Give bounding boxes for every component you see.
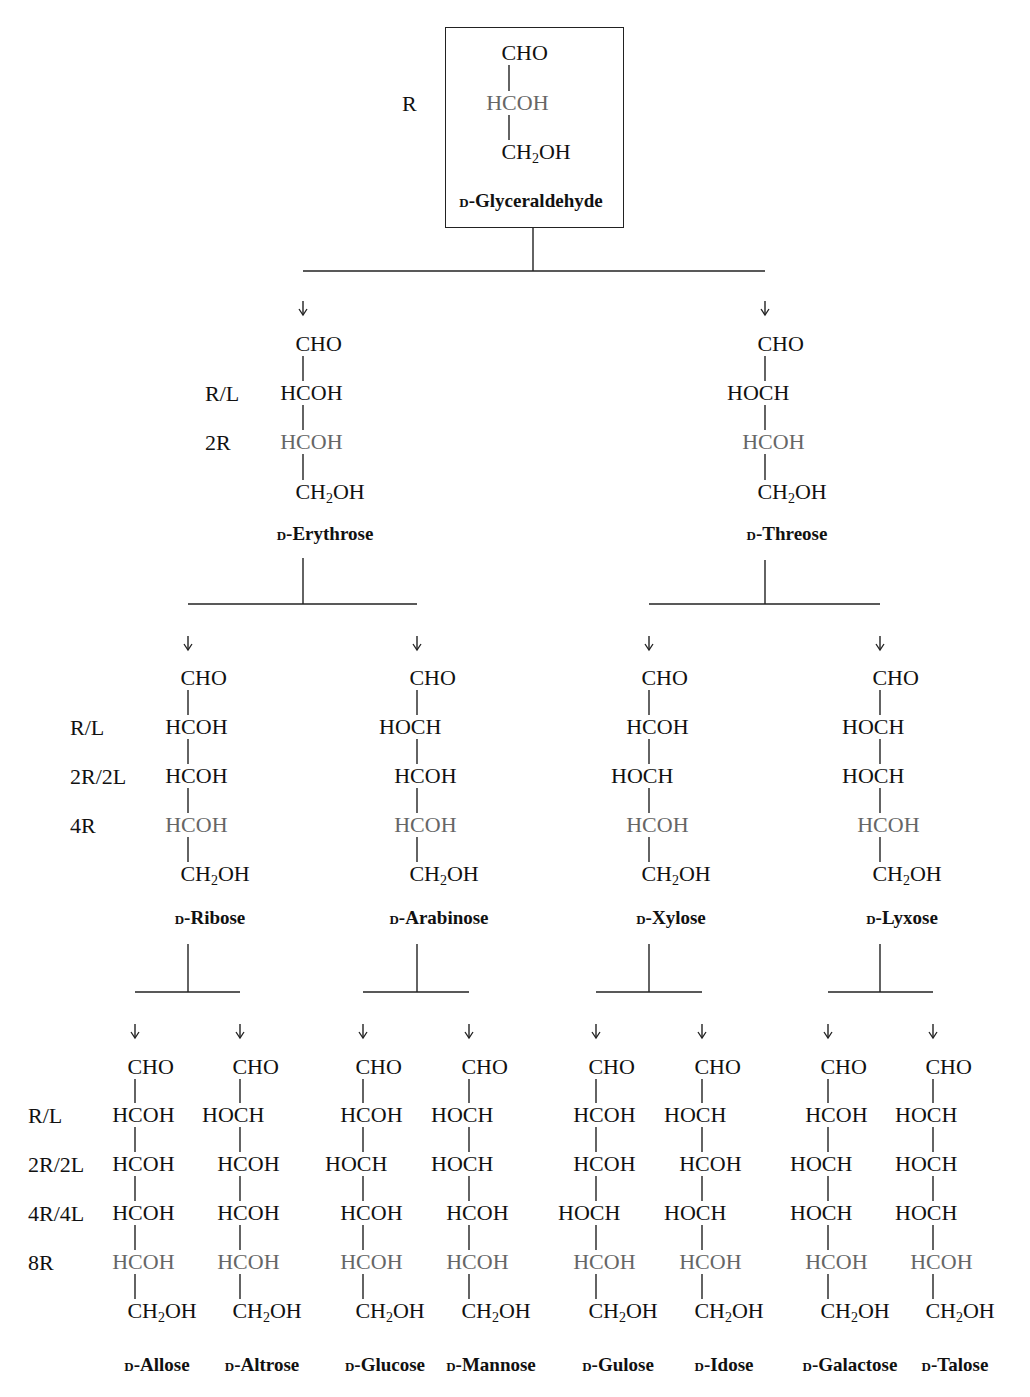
formula-row: HCOH xyxy=(573,1103,635,1127)
formula-row: HCOH xyxy=(217,1152,279,1176)
formula-row: CH2OH xyxy=(355,1299,424,1323)
formula-row: HOCH xyxy=(325,1152,387,1176)
sugar-name-text: -Allose xyxy=(134,1354,190,1375)
d-prefix: D xyxy=(345,1359,354,1374)
d-prefix: D xyxy=(866,912,875,927)
formula-row: HOCH xyxy=(558,1201,620,1225)
sugar-name-text: -Arabinose xyxy=(399,907,489,928)
formula-row: HCOH xyxy=(910,1250,972,1274)
formula-row: CH2OH xyxy=(501,140,570,164)
configuration-label-level4: 4R/4L xyxy=(28,1201,84,1227)
formula-row: CH2OH xyxy=(127,1299,196,1323)
formula-row: CHO xyxy=(820,1055,866,1079)
formula-row: HCOH xyxy=(679,1250,741,1274)
formula-row: HCOH xyxy=(165,715,227,739)
formula-row: HCOH xyxy=(626,715,688,739)
formula-row: CHO xyxy=(232,1055,278,1079)
formula-row: HCOH xyxy=(805,1250,867,1274)
d-prefix: D xyxy=(922,1359,931,1374)
formula-row: CHO xyxy=(180,666,226,690)
sugar-name-text: -Mannose xyxy=(456,1354,536,1375)
formula-row: HCOH xyxy=(857,813,919,837)
d-prefix: D xyxy=(636,912,645,927)
d-prefix: D xyxy=(277,528,286,543)
d-prefix: D xyxy=(747,528,756,543)
sugar-name-gulose: D-Gulose xyxy=(582,1354,654,1376)
sugar-name-altrose: D-Altrose xyxy=(225,1354,299,1376)
sugar-name-text: -Gulose xyxy=(592,1354,654,1375)
formula-row: HCOH xyxy=(446,1250,508,1274)
formula-row: CHO xyxy=(355,1055,401,1079)
formula-row: HCOH xyxy=(486,91,548,115)
sugar-name-glucose: D-Glucose xyxy=(345,1354,425,1376)
d-prefix: D xyxy=(582,1359,591,1374)
formula-row: CH2OH xyxy=(820,1299,889,1323)
formula-row: HCOH xyxy=(165,813,227,837)
d-prefix: D xyxy=(694,1359,703,1374)
formula-row: HCOH xyxy=(394,813,456,837)
sugar-name-text: -Threose xyxy=(756,523,827,544)
formula-row: HCOH xyxy=(112,1201,174,1225)
sugar-name-ribose: D-Ribose xyxy=(175,907,246,929)
sugar-name-arabinose: D-Arabinose xyxy=(389,907,488,929)
aldose-family-tree-diagram: CHOHCOHCH2OHD-GlyceraldehydeRCHOHCOHHCOH… xyxy=(0,0,1030,1397)
formula-row: CHO xyxy=(872,666,918,690)
configuration-label-level2: 2R xyxy=(205,430,231,456)
sugar-name-text: -Ribose xyxy=(184,907,245,928)
formula-row: CH2OH xyxy=(588,1299,657,1323)
formula-row: CH2OH xyxy=(872,862,941,886)
configuration-label-level3: 2R/2L xyxy=(70,764,126,790)
formula-row: HOCH xyxy=(842,715,904,739)
formula-row: HCOH xyxy=(394,764,456,788)
formula-row: CH2OH xyxy=(757,480,826,504)
formula-row: HOCH xyxy=(790,1201,852,1225)
formula-row: CH2OH xyxy=(461,1299,530,1323)
formula-row: HCOH xyxy=(626,813,688,837)
configuration-label-level2: R/L xyxy=(205,381,239,407)
sugar-name-idose: D-Idose xyxy=(694,1354,753,1376)
sugar-name-lyxose: D-Lyxose xyxy=(866,907,938,929)
formula-row: HCOH xyxy=(340,1103,402,1127)
d-prefix: D xyxy=(124,1359,133,1374)
formula-row: CH2OH xyxy=(295,480,364,504)
sugar-name-text: -Glyceraldehyde xyxy=(469,190,603,211)
sugar-name-text: -Erythrose xyxy=(286,523,373,544)
formula-row: HOCH xyxy=(895,1152,957,1176)
formula-row: HOCH xyxy=(895,1201,957,1225)
formula-row: CHO xyxy=(127,1055,173,1079)
formula-row: HCOH xyxy=(217,1250,279,1274)
configuration-label-level3: R/L xyxy=(70,715,104,741)
formula-row: HOCH xyxy=(431,1152,493,1176)
formula-row: CHO xyxy=(757,332,803,356)
formula-row: HCOH xyxy=(340,1201,402,1225)
formula-row: HOCH xyxy=(379,715,441,739)
sugar-name-text: -Galactose xyxy=(812,1354,897,1375)
formula-row: HCOH xyxy=(112,1152,174,1176)
sugar-name-text: -Lyxose xyxy=(876,907,938,928)
d-prefix: D xyxy=(803,1359,812,1374)
sugar-name-text: -Xylose xyxy=(646,907,706,928)
configuration-label-level4: 2R/2L xyxy=(28,1152,84,1178)
sugar-name-threose: D-Threose xyxy=(747,523,828,545)
sugar-name-erythrose: D-Erythrose xyxy=(277,523,374,545)
formula-row: HOCH xyxy=(431,1103,493,1127)
formula-row: HCOH xyxy=(165,764,227,788)
formula-row: HCOH xyxy=(280,430,342,454)
formula-row: CHO xyxy=(641,666,687,690)
sugar-name-glyceraldehyde: D-Glyceraldehyde xyxy=(459,190,602,212)
formula-row: HOCH xyxy=(664,1201,726,1225)
formula-row: CHO xyxy=(694,1055,740,1079)
formula-row: HCOH xyxy=(217,1201,279,1225)
formula-row: HCOH xyxy=(340,1250,402,1274)
sugar-name-talose: D-Talose xyxy=(922,1354,989,1376)
formula-row: HCOH xyxy=(679,1152,741,1176)
formula-row: CH2OH xyxy=(925,1299,994,1323)
formula-row: CH2OH xyxy=(694,1299,763,1323)
formula-row: CH2OH xyxy=(232,1299,301,1323)
formula-row: CH2OH xyxy=(641,862,710,886)
d-prefix: D xyxy=(389,912,398,927)
formula-row: CH2OH xyxy=(409,862,478,886)
formula-row: HOCH xyxy=(202,1103,264,1127)
formula-row: CHO xyxy=(501,41,547,65)
sugar-name-text: -Talose xyxy=(931,1354,988,1375)
